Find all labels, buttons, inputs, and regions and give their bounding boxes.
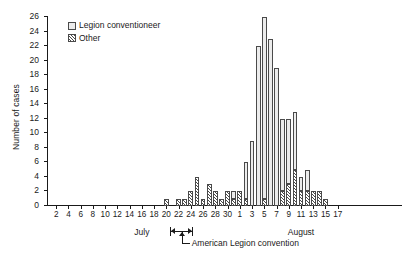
- y-axis-title: Number of cases: [11, 57, 21, 177]
- bar: [299, 177, 304, 206]
- y-axis-tick: 2: [44, 190, 48, 191]
- x-axis-tick: [154, 206, 155, 209]
- bar-segment-legion-conventioneer: [256, 46, 261, 206]
- bar: [323, 199, 328, 206]
- x-axis-tick-label: 5: [262, 210, 267, 219]
- x-axis-tick-label: 1: [238, 210, 243, 219]
- bar-segment-other: [219, 199, 224, 206]
- y-axis-tick: 16: [44, 89, 48, 90]
- bar-segment-other: [280, 191, 285, 206]
- bar-segment-other: [311, 191, 316, 206]
- x-axis-tick-label: 7: [274, 210, 279, 219]
- x-axis-tick-label: 24: [186, 210, 195, 219]
- y-axis-tick-label: 6: [34, 157, 39, 165]
- x-axis-tick-label: 28: [211, 210, 220, 219]
- bar: [311, 191, 316, 206]
- bar: [164, 199, 169, 206]
- y-axis-tick-label: 14: [30, 99, 39, 107]
- y-axis-tick: 14: [44, 103, 48, 104]
- y-axis-tick-label: 20: [30, 56, 39, 64]
- x-axis-tick-label: 18: [150, 210, 159, 219]
- y-axis-tick-label: 10: [30, 128, 39, 136]
- y-axis-tick: 26: [44, 16, 48, 17]
- bar-segment-other: [231, 199, 236, 206]
- y-axis-tick-label: 18: [30, 70, 39, 78]
- bar: [219, 199, 224, 206]
- x-axis-tick-label: 12: [113, 210, 122, 219]
- x-axis-tick: [68, 206, 69, 209]
- y-axis-tick: 12: [44, 118, 48, 119]
- x-axis-tick: [301, 206, 302, 209]
- x-axis-tick: [142, 206, 143, 209]
- x-axis-tick: [166, 206, 167, 209]
- y-axis-tick-label: 4: [34, 172, 39, 180]
- epidemic-curve-figure: Number of cases Legion conventioneer Oth…: [0, 0, 419, 261]
- bar-segment-other: [195, 177, 200, 206]
- x-axis-tick-label: 3: [250, 210, 255, 219]
- convention-annotation-label: American Legion convention: [192, 238, 299, 248]
- y-axis-tick-label: 2: [34, 186, 39, 194]
- bar: [188, 191, 193, 206]
- x-axis-tick: [93, 206, 94, 209]
- y-axis-tick: 0: [44, 205, 48, 206]
- x-axis-tick-label: 16: [137, 210, 146, 219]
- y-axis-tick-label: 8: [34, 143, 39, 151]
- y-axis-tick: 8: [44, 147, 48, 148]
- bar: [213, 191, 218, 206]
- y-axis-tick: 6: [44, 161, 48, 162]
- x-axis-tick: [130, 206, 131, 209]
- x-axis-tick: [105, 206, 106, 209]
- bar-segment-legion-conventioneer: [286, 119, 291, 184]
- bar: [244, 162, 249, 206]
- bar-segment-other: [207, 184, 212, 206]
- x-axis-tick-label: 14: [125, 210, 134, 219]
- x-axis-tick-label: 13: [309, 210, 318, 219]
- bar: [207, 184, 212, 206]
- y-axis-tick: 22: [44, 45, 48, 46]
- bar-segment-other: [188, 191, 193, 206]
- bar-segment-legion-conventioneer: [293, 112, 298, 170]
- bar: [195, 177, 200, 206]
- x-axis-tick: [252, 206, 253, 209]
- bar: [182, 199, 187, 206]
- x-axis-tick: [277, 206, 278, 209]
- x-axis-tick: [191, 206, 192, 209]
- bar-segment-other: [293, 170, 298, 206]
- x-axis-tick: [313, 206, 314, 209]
- y-axis-tick: 4: [44, 176, 48, 177]
- bar: [317, 191, 322, 206]
- bar-segment-other: [317, 191, 322, 206]
- bar-segment-legion-conventioneer: [305, 170, 310, 192]
- bar-segment-other: [201, 199, 206, 206]
- x-axis-tick-label: 2: [54, 210, 59, 219]
- bar-segment-legion-conventioneer: [274, 68, 279, 206]
- x-axis-tick: [179, 206, 180, 209]
- x-axis-tick: [117, 206, 118, 209]
- month-label: August: [288, 227, 314, 237]
- bar: [286, 119, 291, 206]
- x-axis-tick: [325, 206, 326, 209]
- x-axis-tick-label: 9: [286, 210, 291, 219]
- bar-segment-other: [182, 199, 187, 206]
- x-axis-tick: [240, 206, 241, 209]
- bar-segment-legion-conventioneer: [280, 119, 285, 192]
- bar: [274, 68, 279, 206]
- bar: [250, 141, 255, 206]
- bar-segment-other: [286, 184, 291, 206]
- y-axis-tick-label: 0: [34, 201, 39, 209]
- y-axis-tick-label: 26: [30, 12, 39, 20]
- month-label: July: [134, 227, 149, 237]
- bar: [201, 199, 206, 206]
- x-axis-tick: [338, 206, 339, 209]
- y-axis-tick-label: 22: [30, 41, 39, 49]
- x-axis-tick-label: 20: [162, 210, 171, 219]
- bar: [293, 112, 298, 207]
- bar: [256, 46, 261, 206]
- bar: [268, 39, 273, 206]
- convention-leader-elbow: [182, 243, 190, 244]
- bar: [231, 191, 236, 206]
- bar-segment-legion-conventioneer: [244, 162, 249, 198]
- y-axis-tick-label: 16: [30, 85, 39, 93]
- x-axis-tick-label: 4: [66, 210, 71, 219]
- y-axis-tick: 10: [44, 132, 48, 133]
